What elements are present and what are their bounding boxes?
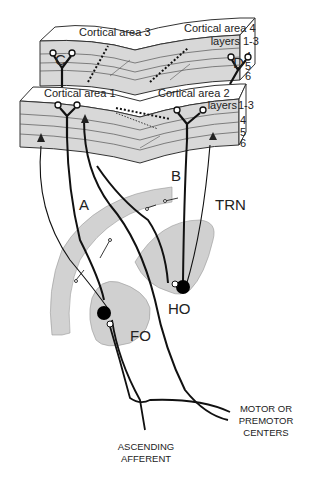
label-layers-lower: layers xyxy=(208,99,238,111)
caption-motor-line-1: MOTOR OR xyxy=(240,403,292,414)
caption-afferent-line-1: ASCENDING xyxy=(118,441,174,452)
ho-synapse xyxy=(172,281,178,287)
label-cortical-area-3: Cortical area 3 xyxy=(79,26,151,38)
fo-relay-cell xyxy=(97,306,111,320)
label-cortical-area-1: Cortical area 1 xyxy=(44,87,116,99)
label-neuron-d: D xyxy=(233,54,244,71)
label-pathway-b: B xyxy=(171,167,181,184)
label-cortical-area-4: Cortical area 4 xyxy=(184,22,256,34)
label-cortical-area-2: Cortical area 2 xyxy=(158,87,230,99)
thalamocortical-diagram: Cortical area 3 Cortical area 4 layers 1… xyxy=(0,0,327,479)
label-ho: HO xyxy=(168,300,191,317)
label-layer-6-lower: 6 xyxy=(240,137,246,149)
ho-relay-cell xyxy=(176,280,190,294)
label-layer-1-3-upper: 1-3 xyxy=(243,35,259,47)
label-layers-upper: layers xyxy=(211,35,241,47)
label-fo: FO xyxy=(130,327,151,344)
label-trn: TRN xyxy=(215,196,246,213)
label-layer-6-upper: 6 xyxy=(245,70,251,82)
caption-motor-line-3: CENTERS xyxy=(243,427,288,438)
label-pathway-a: A xyxy=(79,196,89,213)
label-neuron-c: C xyxy=(55,51,66,68)
label-layer-4-lower: 4 xyxy=(240,114,246,126)
label-layer-1-3-lower: 1-3 xyxy=(238,99,254,111)
caption-afferent-line-2: AFFERENT xyxy=(121,453,171,464)
caption-motor-line-2: PREMOTOR xyxy=(239,415,294,426)
fo-synapse xyxy=(107,321,113,327)
